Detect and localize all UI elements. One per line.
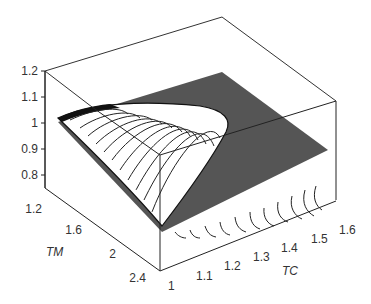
tc-tick-label: 1.1 <box>196 269 213 283</box>
surface-plot-figure: 1.2 1.1 1 0.9 0.8 1.2 1.6 2 2.4 TM 1 1.1… <box>0 0 371 304</box>
tc-tick-label: 1.6 <box>339 223 356 237</box>
tc-tick-label: 1.3 <box>253 250 270 264</box>
tc-tick-label: 1.2 <box>224 259 241 273</box>
tm-tick-label: 1.6 <box>65 223 82 237</box>
z-tick-label: 0.8 <box>21 168 38 182</box>
tm-tick-label: 2 <box>109 247 116 261</box>
tc-axis-label: TC <box>282 264 298 278</box>
z-tick-label: 1.1 <box>21 90 38 104</box>
tm-tick-label: 2.4 <box>129 271 146 285</box>
z-axis: 1.2 1.1 1 0.9 0.8 <box>21 64 45 188</box>
z-tick-label: 1 <box>31 116 38 130</box>
surface-plot: 1.2 1.1 1 0.9 0.8 1.2 1.6 2 2.4 TM 1 1.1… <box>0 0 371 304</box>
z-tick-label: 0.9 <box>21 142 38 156</box>
tc-tick-label: 1.4 <box>281 241 298 255</box>
tc-tick-label: 1 <box>168 279 175 293</box>
z-tick-label: 1.2 <box>21 64 38 78</box>
tc-tick-label: 1.5 <box>311 232 328 246</box>
tm-axis-label: TM <box>46 245 63 259</box>
tm-tick-label: 1.2 <box>25 202 42 216</box>
